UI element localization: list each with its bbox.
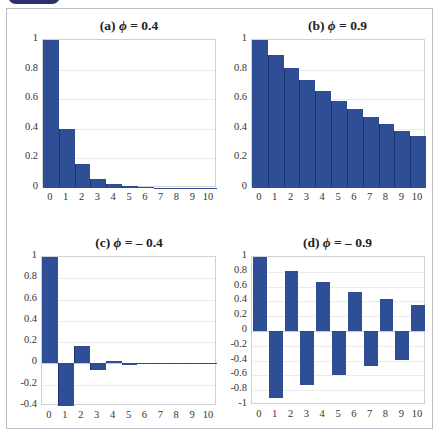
y-tick-label: 0.8 [217, 264, 247, 275]
y-tick-label: -1 [217, 397, 247, 408]
y-tick-label: -0.6 [217, 367, 247, 378]
bar [348, 292, 362, 331]
y-tick-label: 0.4 [217, 293, 247, 304]
plot-area [251, 256, 425, 404]
bar [316, 282, 330, 331]
x-tick-label: 6 [346, 408, 362, 419]
x-tick-label: 10 [409, 408, 425, 419]
y-tick-label: -0.8 [217, 382, 247, 393]
y-tick-label: 0.2 [217, 308, 247, 319]
bar [332, 331, 346, 375]
x-tick-label: 5 [330, 408, 346, 419]
y-tick-label: 1 [217, 249, 247, 260]
gridline [252, 272, 424, 273]
y-tick-label: -0.4 [217, 353, 247, 364]
bar [285, 271, 299, 331]
x-tick-label: 7 [362, 408, 378, 419]
gridline [252, 316, 424, 317]
bar [253, 257, 267, 331]
x-tick-label: 2 [283, 408, 299, 419]
gridline [252, 287, 424, 288]
x-tick-label: 1 [267, 408, 283, 419]
panel-title: (d) ϕ = – 0.9 [251, 235, 424, 251]
x-tick-label: 4 [314, 408, 330, 419]
bar [364, 331, 378, 366]
bar [300, 331, 314, 385]
bar [395, 331, 409, 360]
x-tick-label: 0 [251, 408, 267, 419]
y-tick-label: 0.6 [217, 279, 247, 290]
bar [411, 305, 425, 331]
x-tick-label: 8 [377, 408, 393, 419]
y-tick-label: -0.2 [217, 338, 247, 349]
x-tick-label: 3 [298, 408, 314, 419]
y-tick-label: 0 [217, 323, 247, 334]
bar [269, 331, 283, 398]
gridline [252, 301, 424, 302]
bar [380, 299, 394, 331]
panel-d: (d) ϕ = – 0.9 10.80.60.40.20-0.2-0.4-0.6… [0, 0, 437, 440]
x-tick-label: 9 [393, 408, 409, 419]
